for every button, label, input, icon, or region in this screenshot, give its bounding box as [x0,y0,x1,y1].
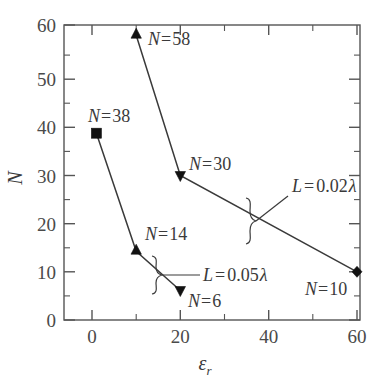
scatter-line-chart: 0 10 20 30 40 50 60 0 20 40 60 N εr [0,0,385,377]
annotation-n58-val: 58 [172,29,190,49]
annotation-n38-var: N [87,106,101,126]
annotation-n14-var: N [144,224,158,244]
label-l005-var: L [202,265,213,285]
label-l005-unit: λ [259,265,268,285]
marker-triangle-up-n58 [131,28,141,38]
y-tick-label-40: 40 [37,117,56,138]
annotation-n10-val: 10 [329,279,347,299]
x-tick-label-40: 40 [259,326,278,347]
y-tick-label-0: 0 [47,310,57,331]
marker-triangle-down-n6 [175,287,185,297]
brace-l005-icon [152,256,162,294]
callout-l005: L=0.05λ [152,256,268,294]
y-tick-label-50: 50 [37,69,56,90]
y-tick-label-60: 60 [37,15,56,36]
label-l005-eq: = [215,265,225,285]
chart-figure: 0 10 20 30 40 50 60 0 20 40 60 N εr [0,0,385,377]
callout-l002: L=0.02λ [246,176,357,244]
annotation-n58-var: N [147,29,161,49]
annotation-n10: N=10 [304,279,347,299]
brace-l002-icon [246,198,256,244]
y-tick-label-20: 20 [37,214,56,235]
y-tick-label-30: 30 [37,166,56,187]
series-l005 [91,128,185,296]
annotation-n38: N=38 [87,106,130,126]
label-l002-unit: λ [348,176,357,196]
x-tick-label-20: 20 [171,326,190,347]
y-tick-label-10: 10 [37,262,56,283]
annotation-n30: N=30 [188,154,231,174]
marker-triangle-up-n14 [131,244,141,254]
annotation-n38-eq: = [101,106,111,126]
annotation-n6-var: N [187,291,201,311]
annotation-n10-var: N [304,279,318,299]
x-tick-label-0: 0 [87,326,97,347]
x-tick-labels: 0 20 40 60 [87,326,366,347]
y-axis-title: N [4,170,26,186]
series-l005-line [96,133,180,290]
annotation-n30-val: 30 [213,154,231,174]
annotation-n6: N=6 [187,291,221,311]
marker-square-n38 [91,128,101,138]
annotation-n10-eq: = [318,279,328,299]
annotation-n58-eq: = [161,29,171,49]
annotation-n58: N=58 [147,29,190,49]
annotation-n14: N=14 [144,224,187,244]
label-l002-eq: = [304,176,314,196]
annotation-n6-val: 6 [212,291,221,311]
x-tick-label-60: 60 [348,326,367,347]
annotation-n30-eq: = [202,154,212,174]
y-tick-labels: 0 10 20 30 40 50 60 [37,15,56,331]
annotation-n14-val: 14 [169,224,187,244]
x-axis-title: εr [199,352,213,377]
leader-line-l002 [256,196,288,221]
label-l005-val: 0.05 [227,265,259,285]
marker-triangle-down-n30 [175,172,185,182]
label-l005: L=0.05λ [202,265,268,285]
label-l002-var: L [291,176,302,196]
annotation-n6-eq: = [201,291,211,311]
annotation-n14-eq: = [158,224,168,244]
x-axis-title-epsilon: ε [199,352,207,374]
label-l002-val: 0.02 [316,176,348,196]
annotation-n30-var: N [188,154,202,174]
annotation-n38-val: 38 [112,106,130,126]
label-l002: L=0.02λ [291,176,357,196]
x-axis-title-subscript: r [206,363,212,377]
